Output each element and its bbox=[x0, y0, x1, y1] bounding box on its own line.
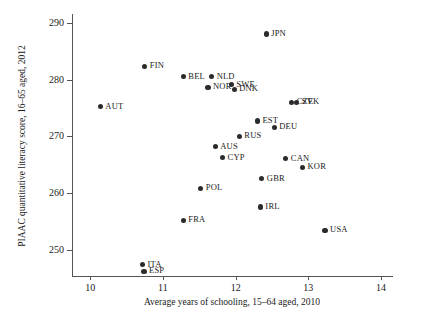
x-tick-label: 11 bbox=[143, 282, 183, 294]
data-point-marker bbox=[255, 118, 260, 123]
data-point-label: AUT bbox=[105, 101, 123, 112]
x-axis-line bbox=[72, 276, 393, 277]
y-tick-mark bbox=[67, 80, 72, 81]
y-tick-mark bbox=[67, 193, 72, 194]
data-point-label: USA bbox=[330, 224, 348, 235]
x-tick-mark bbox=[163, 276, 164, 280]
x-tick-label: 10 bbox=[70, 282, 110, 294]
data-point-label: BEL bbox=[188, 71, 205, 82]
y-tick-label: 290 bbox=[26, 17, 64, 29]
data-point-label: AUS bbox=[220, 141, 238, 152]
data-point-marker bbox=[300, 165, 305, 170]
data-point-label: FRA bbox=[188, 214, 205, 225]
data-point-label: ESP bbox=[149, 265, 164, 276]
data-point-label: NLD bbox=[217, 71, 235, 82]
x-tick-mark bbox=[381, 276, 382, 280]
y-tick-mark bbox=[67, 23, 72, 24]
data-point-marker bbox=[272, 125, 277, 130]
y-tick-label: 260 bbox=[26, 187, 64, 199]
data-point-label: DNK bbox=[239, 83, 258, 94]
data-point-label: KOR bbox=[308, 161, 327, 172]
data-point-marker bbox=[258, 204, 263, 209]
x-tick-mark bbox=[236, 276, 237, 280]
data-point-label: GBR bbox=[267, 173, 285, 184]
x-axis-title: Average years of schooling, 15–64 aged, … bbox=[72, 296, 392, 308]
data-point-marker bbox=[141, 269, 146, 274]
y-tick-mark bbox=[67, 250, 72, 251]
y-tick-mark bbox=[67, 136, 72, 137]
y-axis-title: PIAAC quantitative literacy score, 16–65… bbox=[16, 11, 28, 281]
data-point-label: POL bbox=[206, 182, 223, 193]
data-point-marker bbox=[264, 31, 269, 36]
data-point-marker bbox=[322, 228, 327, 233]
data-point-marker bbox=[181, 218, 186, 223]
scatter-chart-figure: 1011121314 250260270280290 JPNFINBELNLDN… bbox=[0, 0, 432, 314]
data-point-label: JPN bbox=[271, 28, 286, 39]
data-point-label: CYP bbox=[228, 152, 245, 163]
y-tick-label: 250 bbox=[26, 244, 64, 256]
data-point-marker bbox=[205, 85, 210, 90]
y-tick-label: 270 bbox=[26, 130, 64, 142]
y-tick-label: 280 bbox=[26, 74, 64, 86]
y-axis-line bbox=[72, 14, 73, 276]
data-point-label: IRL bbox=[265, 201, 279, 212]
data-point-label: FIN bbox=[150, 60, 164, 71]
data-point-label: SVK bbox=[302, 96, 320, 107]
x-tick-label: 12 bbox=[216, 282, 256, 294]
data-point-marker bbox=[232, 87, 237, 92]
data-point-marker bbox=[237, 134, 242, 139]
x-tick-mark bbox=[90, 276, 91, 280]
data-point-label: DEU bbox=[279, 121, 297, 132]
x-tick-label: 14 bbox=[361, 282, 401, 294]
x-tick-mark bbox=[308, 276, 309, 280]
data-point-label: RUS bbox=[244, 130, 261, 141]
x-tick-label: 13 bbox=[288, 282, 328, 294]
